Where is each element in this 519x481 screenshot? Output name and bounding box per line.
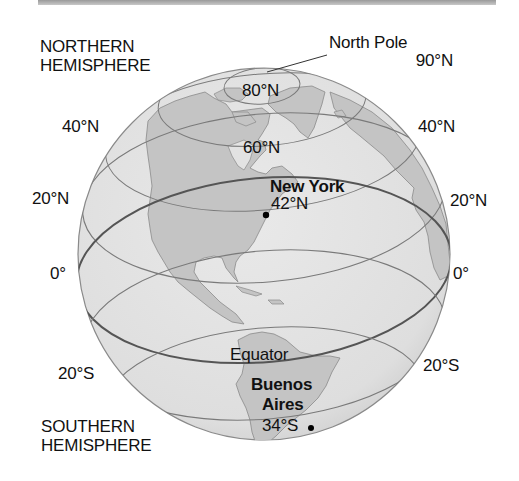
north-pole-label: North Pole — [329, 33, 407, 52]
southern-hemisphere-line2: HEMISPHERE — [41, 436, 151, 455]
lat-80n-label: 80°N — [242, 81, 279, 100]
buenos-aires-lat-label: 34°S — [262, 416, 298, 435]
southern-hemisphere-label: SOUTHERN HEMISPHERE — [41, 417, 151, 455]
north-pole-lat-label: 90°N — [380, 51, 453, 70]
lat-60n-label: 60°N — [243, 138, 280, 157]
lat-40n-left-label: 40°N — [62, 117, 99, 136]
lat-20n-right-label: 20°N — [450, 191, 487, 210]
lat-20n-left-label: 20°N — [32, 189, 69, 208]
lat-40n-right-label: 40°N — [418, 117, 455, 136]
northern-hemisphere-line1: NORTHERN — [40, 37, 150, 56]
new-york-dot — [263, 212, 269, 218]
lat-20s-right-label: 20°S — [423, 356, 459, 375]
northern-hemisphere-label: NORTHERN HEMISPHERE — [40, 37, 150, 75]
equator-label: Equator — [230, 345, 288, 364]
northern-hemisphere-line2: HEMISPHERE — [40, 56, 150, 75]
buenos-aires-dot — [308, 425, 314, 431]
lat-20s-left-label: 20°S — [58, 364, 94, 383]
lat-0-left-label: 0° — [50, 264, 66, 283]
buenos-aires-label-line1: Buenos — [251, 375, 312, 394]
southern-hemisphere-line1: SOUTHERN — [41, 417, 151, 436]
buenos-aires-label-line2: Aires — [262, 395, 304, 414]
north-pole-leader — [267, 55, 327, 72]
lat-0-right-label: 0° — [453, 264, 469, 283]
new-york-lat-label: 42°N — [271, 194, 308, 213]
